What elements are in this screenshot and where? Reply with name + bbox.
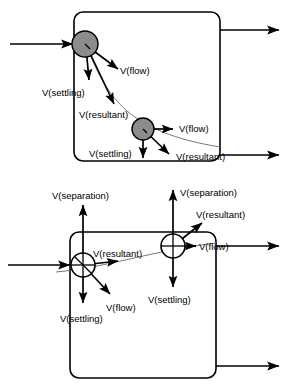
bottom-p4-v-settling-label: V(settling)	[148, 294, 191, 305]
top-p1-v-settling-label: V(settling)	[42, 87, 85, 98]
bottom-p4-v-resultant-label: V(resultant)	[196, 209, 245, 220]
settling-vs-flotation-vector-diagram: V(flow) V(settling) V(resultant) V(flow)…	[0, 0, 287, 391]
top-p1-v-flow-label: V(flow)	[120, 65, 150, 76]
bottom-p4-v-flow-label: V(flow)	[199, 241, 229, 252]
top-panel: V(flow) V(settling) V(resultant) V(flow)…	[10, 12, 279, 162]
flotation-tank-outline	[70, 232, 216, 378]
bottom-p3-v-resultant-label: V(resultant)	[93, 248, 142, 259]
top-p1-v-resultant-label: V(resultant)	[79, 109, 128, 120]
top-p2-v-resultant-label: V(resultant)	[176, 151, 225, 162]
top-p2-v-flow-label: V(flow)	[179, 123, 209, 134]
bottom-panel: V(separation) V(resultant) V(flow) V(set…	[8, 187, 279, 378]
top-p2-v-settling-label: V(settling)	[89, 148, 132, 159]
bottom-p3-v-settling-label: V(settling)	[60, 313, 103, 324]
bottom-p3-v-separation-label: V(separation)	[52, 190, 109, 201]
bottom-p3-v-flow-label: V(flow)	[106, 302, 136, 313]
bottom-p4-v-separation-label: V(separation)	[180, 187, 237, 198]
diagram-root: V(flow) V(settling) V(resultant) V(flow)…	[0, 0, 287, 391]
